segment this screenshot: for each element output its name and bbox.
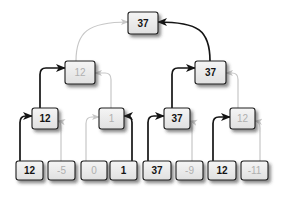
edge-n22-n11-winner xyxy=(172,68,195,108)
node-value-root: 37 xyxy=(137,18,149,29)
node-value-n21: 1 xyxy=(109,113,115,124)
tree-node-l6: 12 xyxy=(208,161,236,180)
edge-n20-n10-winner xyxy=(40,68,65,108)
node-value-n23: 12 xyxy=(237,113,249,124)
node-value-l6: 12 xyxy=(216,165,228,176)
edge-l3-n21-winner xyxy=(124,116,132,161)
node-value-n10: 12 xyxy=(74,67,86,78)
node-value-l1: -5 xyxy=(57,165,66,176)
node-value-n11: 37 xyxy=(205,67,217,78)
node-value-l5: -9 xyxy=(185,165,194,176)
edge-l2-n21-loser xyxy=(86,117,99,161)
tree-node-n10: 12 xyxy=(65,61,95,84)
tree-node-l3: 1 xyxy=(110,161,137,180)
edge-l7-n23-loser xyxy=(255,121,260,161)
tree-node-n11: 37 xyxy=(195,61,226,84)
tree-nodes: 371237121371212-50137-912-11 xyxy=(16,12,268,180)
tree-node-l1: -5 xyxy=(48,161,75,180)
tree-edges xyxy=(20,22,260,161)
tree-svg: 371237121371212-50137-912-11 xyxy=(0,0,291,199)
node-value-n22: 37 xyxy=(171,113,183,124)
tree-node-l4: 37 xyxy=(143,161,171,180)
edge-l4-n22-winner xyxy=(148,116,164,161)
edge-l0-n20-winner xyxy=(20,116,32,161)
node-value-n20: 12 xyxy=(39,113,51,124)
edge-n23-n11-loser xyxy=(226,73,238,108)
tree-node-l2: 0 xyxy=(81,161,107,180)
tree-node-l5: -9 xyxy=(176,161,203,180)
binary-tree-diagram: 371237121371212-50137-912-11 xyxy=(0,0,291,199)
tree-node-l7: -11 xyxy=(241,161,268,180)
node-value-l4: 37 xyxy=(151,165,163,176)
node-value-l0: 12 xyxy=(24,165,36,176)
tree-node-l0: 12 xyxy=(16,161,43,180)
tree-node-n21: 1 xyxy=(99,108,124,129)
node-value-l7: -11 xyxy=(248,165,262,176)
tree-node-n22: 37 xyxy=(164,108,190,129)
tree-node-n20: 12 xyxy=(32,108,58,129)
edge-n10-root-loser xyxy=(76,22,128,61)
node-value-l2: 0 xyxy=(91,165,97,176)
edge-n21-n10-loser xyxy=(95,73,111,108)
edge-l6-n23-winner xyxy=(213,117,230,161)
tree-node-n23: 12 xyxy=(230,108,255,129)
edge-n11-root-winner xyxy=(158,22,210,61)
tree-node-root: 37 xyxy=(128,12,158,34)
node-value-l3: 1 xyxy=(121,165,127,176)
